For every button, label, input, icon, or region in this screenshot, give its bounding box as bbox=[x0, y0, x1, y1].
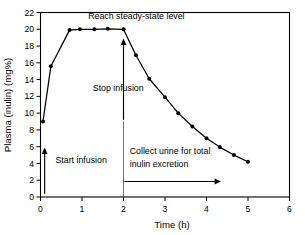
annotation-steady-state: Reach steady-state level bbox=[88, 11, 184, 21]
y-tick-label: 16 bbox=[24, 58, 34, 68]
annotation-markers bbox=[42, 38, 221, 197]
y-tick-label: 2 bbox=[29, 175, 34, 185]
y-tick-label: 14 bbox=[24, 75, 34, 85]
x-axis-ticks: 0123456 bbox=[38, 197, 292, 214]
y-tick-label: 22 bbox=[24, 8, 34, 18]
data-point bbox=[68, 28, 72, 32]
data-point bbox=[92, 27, 96, 31]
data-point bbox=[163, 95, 167, 99]
data-point bbox=[205, 136, 209, 140]
y-tick-label: 0 bbox=[29, 192, 34, 202]
annotation-labels: Reach steady-state levelStop infusionSta… bbox=[55, 11, 210, 169]
data-point bbox=[246, 160, 250, 164]
x-tick-label: 3 bbox=[163, 204, 168, 214]
data-point bbox=[218, 145, 222, 149]
data-point bbox=[41, 120, 45, 124]
data-point bbox=[147, 77, 151, 81]
x-tick-label: 0 bbox=[38, 204, 43, 214]
data-point bbox=[49, 64, 53, 68]
plasma-inulin-line-chart: 0246810121416182022 0123456 Plasma (inul… bbox=[0, 0, 305, 235]
plot-frame bbox=[41, 13, 290, 198]
annotation-collect-urine-line-1: Collect urine for total bbox=[130, 146, 211, 156]
data-point bbox=[232, 153, 236, 157]
x-tick-label: 4 bbox=[204, 204, 209, 214]
y-tick-label: 8 bbox=[29, 125, 34, 135]
data-point bbox=[176, 111, 180, 115]
annotation-stop-infusion: Stop infusion bbox=[93, 83, 144, 93]
y-axis-ticks: 0246810121416182022 bbox=[24, 8, 40, 203]
start-infusion-arrow-head bbox=[42, 148, 48, 154]
data-point bbox=[122, 27, 126, 31]
data-point bbox=[134, 53, 138, 57]
annotation-start-infusion: Start infusion bbox=[55, 155, 106, 165]
y-tick-label: 12 bbox=[24, 91, 34, 101]
y-tick-label: 6 bbox=[29, 142, 34, 152]
y-tick-label: 20 bbox=[24, 24, 34, 34]
series-line-0 bbox=[43, 29, 248, 162]
data-series-group bbox=[41, 27, 250, 164]
x-axis-title: Time (h) bbox=[154, 219, 189, 230]
chart-figure: 0246810121416182022 0123456 Plasma (inul… bbox=[0, 0, 305, 235]
y-tick-label: 18 bbox=[24, 41, 34, 51]
x-tick-label: 2 bbox=[121, 204, 126, 214]
collect-urine-arrow-head bbox=[215, 179, 221, 185]
x-tick-label: 1 bbox=[80, 204, 85, 214]
x-tick-label: 6 bbox=[287, 204, 292, 214]
data-point bbox=[106, 27, 110, 31]
plot-frame-border bbox=[41, 13, 290, 198]
y-tick-label: 4 bbox=[29, 159, 34, 169]
x-tick-label: 5 bbox=[246, 204, 251, 214]
annotation-collect-urine-line-2: inulin excretion bbox=[130, 159, 189, 169]
y-tick-label: 10 bbox=[24, 108, 34, 118]
stop-infusion-arrow-head bbox=[121, 38, 127, 44]
y-axis-title: Plasma (inulin) (mg%) bbox=[2, 58, 13, 152]
data-point bbox=[190, 125, 194, 129]
data-point bbox=[78, 27, 82, 31]
